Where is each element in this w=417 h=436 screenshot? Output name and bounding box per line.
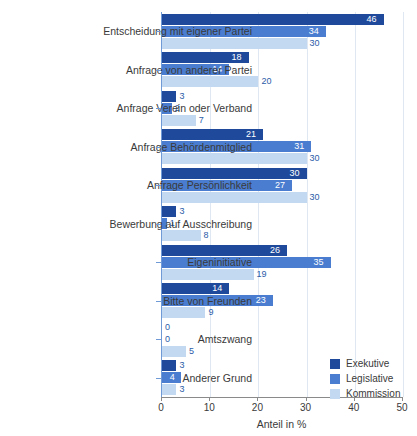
category-tick (156, 301, 161, 302)
bar-value-label: 0 (165, 333, 170, 345)
category-label: Anfrage Behördenmitglied (131, 141, 252, 153)
bar-row: 30 (162, 192, 403, 203)
x-tick-label: 40 (339, 402, 369, 414)
bar-value-label: 0 (165, 321, 170, 333)
bar-row: 46 (162, 14, 403, 25)
legend-item-kommission[interactable]: Kommission (330, 388, 400, 399)
x-tick-label: 50 (387, 402, 417, 414)
bar-kommission (162, 115, 196, 126)
bar-value-label: 34 (309, 25, 319, 37)
bar-chart: 4634301814203272131303027303182635191423… (0, 0, 417, 436)
bar-value-label: 30 (310, 152, 320, 164)
x-tick (402, 397, 403, 401)
x-tick-label: 10 (194, 402, 224, 414)
bar-row: 14 (162, 283, 403, 294)
bar-row: 3 (162, 206, 403, 217)
bar-value-label: 30 (310, 37, 320, 49)
bar-value-label: 3 (179, 359, 184, 371)
bar-row: 9 (162, 307, 403, 318)
bar-value-label: 21 (246, 128, 256, 140)
bar-row: 19 (162, 269, 403, 280)
category-tick (156, 185, 161, 186)
category-label: Entscheidung mit eigener Partei (103, 25, 252, 37)
bar-value-label: 35 (314, 256, 324, 268)
category-tick (156, 108, 161, 109)
legend-item-exekutive[interactable]: Exekutive (330, 358, 400, 369)
legend-swatch-icon (330, 374, 340, 384)
category-label: Anderer Grund (183, 372, 252, 384)
bar-value-label: 23 (256, 294, 266, 306)
bar-value-label: 3 (179, 383, 184, 395)
bar-row: 0 (162, 322, 403, 333)
bar-value-label: 18 (232, 51, 242, 63)
bar-kommission (162, 192, 307, 203)
bar-row: 30 (162, 38, 403, 49)
bar-kommission (162, 153, 307, 164)
bar-value-label: 26 (270, 244, 280, 256)
bar-kommission (162, 346, 186, 357)
bar-row: 30 (162, 153, 403, 164)
x-tick-label: 0 (146, 402, 176, 414)
bar-kommission (162, 38, 307, 49)
bar-value-label: 8 (204, 229, 209, 241)
bar-value-label: 31 (294, 140, 304, 152)
bar-value-label: 19 (257, 268, 267, 280)
bar-value-label: 5 (189, 345, 194, 357)
category-label: Anfrage von anderer Partei (126, 64, 252, 76)
bar-kommission (162, 384, 176, 395)
bar-value-label: 9 (208, 306, 213, 318)
bar-row: 18 (162, 52, 403, 63)
bar-value-label: 7 (199, 114, 204, 126)
x-axis-title: Anteil in % (161, 418, 402, 430)
bar-value-label: 3 (179, 90, 184, 102)
category-tick (156, 147, 161, 148)
bar-exekutive (162, 206, 176, 217)
category-label: Eigeninitiative (187, 256, 252, 268)
bar-value-label: 3 (179, 205, 184, 217)
bar-value-label: 46 (367, 13, 377, 25)
legend-item-legislative[interactable]: Legislative (330, 373, 400, 384)
category-tick (156, 31, 161, 32)
bar-row: 5 (162, 346, 403, 357)
bar-exekutive (162, 91, 176, 102)
bar-exekutive (162, 360, 176, 371)
bar-row: 21 (162, 129, 403, 140)
category-label: Bewerbung auf Ausschreibung (110, 218, 252, 230)
bar-kommission (162, 269, 254, 280)
bar-row: 20 (162, 76, 403, 87)
category-tick (156, 339, 161, 340)
bar-value-label: 30 (289, 167, 299, 179)
x-tick-label: 20 (242, 402, 272, 414)
bar-exekutive (162, 168, 307, 179)
category-tick (156, 70, 161, 71)
bar-exekutive (162, 14, 384, 25)
legend-swatch-icon (330, 359, 340, 369)
category-label: Bitte von Freunden (163, 295, 252, 307)
bar-row: 7 (162, 115, 403, 126)
legend-swatch-icon (330, 389, 340, 399)
category-tick (156, 378, 161, 379)
legend: ExekutiveLegislativeKommission (330, 358, 400, 403)
x-tick-label: 30 (291, 402, 321, 414)
bar-row: 3 (162, 91, 403, 102)
bar-kommission (162, 76, 258, 87)
bar-value-label: 14 (212, 282, 222, 294)
bar-exekutive (162, 245, 287, 256)
bar-value-label: 4 (170, 371, 175, 383)
legend-label: Kommission (346, 388, 400, 399)
category-label: Anfrage Verein oder Verband (117, 102, 252, 114)
bar-value-label: 30 (310, 191, 320, 203)
bar-kommission (162, 307, 205, 318)
legend-label: Legislative (346, 373, 393, 384)
bar-row: 26 (162, 245, 403, 256)
legend-label: Exekutive (346, 358, 389, 369)
category-label: Anfrage Persönlichkeit (147, 179, 252, 191)
bar-row: 30 (162, 168, 403, 179)
gridline (403, 12, 404, 397)
bar-value-label: 20 (261, 75, 271, 87)
category-tick (156, 262, 161, 263)
bar-kommission (162, 230, 201, 241)
category-label: Amtszwang (198, 333, 252, 345)
bar-row: 8 (162, 230, 403, 241)
bar-value-label: 27 (275, 179, 285, 191)
